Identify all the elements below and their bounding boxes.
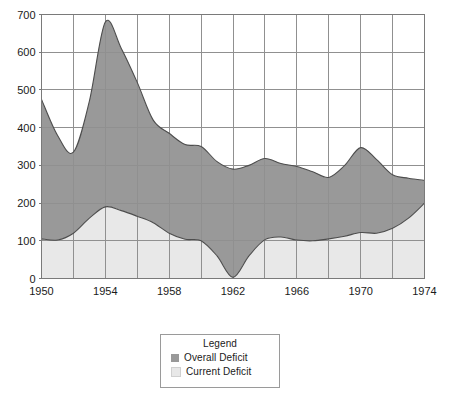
y-axis-tick-label: 200	[17, 197, 35, 209]
legend-title: Legend	[161, 337, 279, 350]
legend-swatch-overall-deficit	[171, 354, 179, 362]
legend-label-overall-deficit: Overall Deficit	[184, 351, 248, 364]
y-axis-tick-label: 100	[17, 235, 35, 247]
y-axis-tick-label: 400	[17, 122, 35, 134]
x-axis-tick-label: 1974	[412, 285, 436, 297]
y-axis-tick-label: 700	[17, 9, 35, 21]
legend-item-overall-deficit: Overall Deficit	[161, 351, 279, 364]
chart-legend: Legend Overall Deficit Current Deficit	[160, 334, 280, 388]
y-axis-tick-label: 300	[17, 159, 35, 171]
x-axis-tick-label: 1954	[93, 285, 117, 297]
chart-container: 0100200300400500600700195019541958196219…	[0, 0, 449, 399]
legend-swatch-current-deficit	[171, 367, 181, 377]
x-axis-tick-label: 1970	[348, 285, 372, 297]
y-axis-tick-label: 500	[17, 84, 35, 96]
x-axis-tick-label: 1966	[285, 285, 309, 297]
y-axis-tick-label: 0	[29, 273, 35, 285]
x-axis-tick-label: 1962	[221, 285, 245, 297]
legend-label-current-deficit: Current Deficit	[186, 365, 251, 378]
y-axis-tick-label: 600	[17, 46, 35, 58]
legend-item-current-deficit: Current Deficit	[161, 365, 279, 378]
x-axis-tick-label: 1950	[29, 285, 53, 297]
x-axis-tick-label: 1958	[157, 285, 181, 297]
